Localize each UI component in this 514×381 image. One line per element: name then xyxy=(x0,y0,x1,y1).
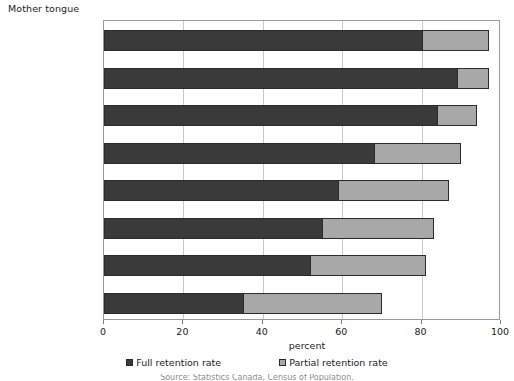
category-axis-title: Mother tongue xyxy=(8,3,79,14)
bar-segment-full[interactable] xyxy=(104,180,338,201)
bar-segment-full[interactable] xyxy=(104,218,322,239)
x-axis-title: percent xyxy=(0,340,514,351)
x-tick-label: 20 xyxy=(162,326,202,337)
bar-segment-partial[interactable] xyxy=(243,293,382,314)
bar-segment-full[interactable] xyxy=(104,105,437,126)
x-tick-label: 60 xyxy=(321,326,361,337)
bar-segment-full[interactable] xyxy=(104,143,374,164)
x-axis-title-text: percent xyxy=(289,340,325,351)
bar-row xyxy=(104,255,499,276)
bar-segment-partial[interactable] xyxy=(457,68,489,89)
x-tick-mark xyxy=(421,320,422,324)
bar-segment-partial[interactable] xyxy=(374,143,461,164)
stacked-bar[interactable] xyxy=(104,218,434,239)
bar-row xyxy=(104,30,499,51)
bar-segment-full[interactable] xyxy=(104,30,422,51)
x-tick-label: 40 xyxy=(242,326,282,337)
stacked-bar[interactable] xyxy=(104,293,382,314)
stacked-bar[interactable] xyxy=(104,30,489,51)
retention-rate-bar-chart: Mother tongue InuktitutAtikamekwMontagna… xyxy=(0,0,514,381)
bar-row xyxy=(104,293,499,314)
bar-row xyxy=(104,68,499,89)
x-tick-mark xyxy=(182,320,183,324)
legend-item-partial[interactable]: Partial retention rate xyxy=(279,357,388,368)
legend-label-partial: Partial retention rate xyxy=(289,357,388,368)
plot-area xyxy=(103,20,500,320)
legend-label-full: Full retention rate xyxy=(136,357,221,368)
bar-segment-partial[interactable] xyxy=(338,180,449,201)
x-tick-mark xyxy=(103,320,104,324)
stacked-bar[interactable] xyxy=(104,143,461,164)
bar-row xyxy=(104,218,499,239)
x-tick-mark xyxy=(341,320,342,324)
x-tick-label: 80 xyxy=(401,326,441,337)
footnote-clipped: Source: Statistics Canada, Census of Pop… xyxy=(0,374,514,381)
chart-legend: Full retention rate Partial retention ra… xyxy=(0,357,514,368)
bar-segment-partial[interactable] xyxy=(437,105,477,126)
bar-segment-partial[interactable] xyxy=(322,218,433,239)
bar-row xyxy=(104,143,499,164)
stacked-bar[interactable] xyxy=(104,255,426,276)
legend-item-full[interactable]: Full retention rate xyxy=(126,357,221,368)
bar-row xyxy=(104,105,499,126)
bar-segment-partial[interactable] xyxy=(422,30,489,51)
stacked-bar[interactable] xyxy=(104,180,449,201)
stacked-bar[interactable] xyxy=(104,68,489,89)
x-tick-label: 0 xyxy=(83,326,123,337)
bar-segment-full[interactable] xyxy=(104,255,310,276)
x-tick-mark xyxy=(262,320,263,324)
x-tick-mark xyxy=(500,320,501,324)
x-tick-label: 100 xyxy=(480,326,514,337)
footnote-clipped-text: Source: Statistics Canada, Census of Pop… xyxy=(0,374,514,381)
legend-swatch-full-icon xyxy=(126,359,133,366)
bar-segment-full[interactable] xyxy=(104,293,243,314)
bar-segment-full[interactable] xyxy=(104,68,457,89)
bar-row xyxy=(104,180,499,201)
legend-swatch-partial-icon xyxy=(279,359,286,366)
bar-segment-partial[interactable] xyxy=(310,255,425,276)
stacked-bar[interactable] xyxy=(104,105,477,126)
